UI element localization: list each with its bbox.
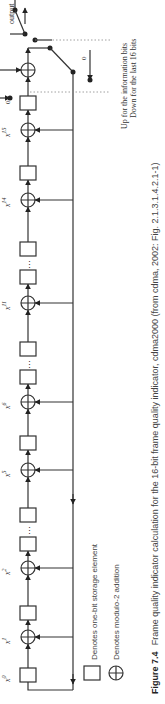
svg-text:Denotes modulo-2 addition: Denotes modulo-2 addition bbox=[112, 564, 121, 660]
svg-text:Denotes one-bit storage elemen: Denotes one-bit storage element bbox=[90, 543, 99, 660]
storage-element bbox=[20, 668, 36, 682]
storage-element bbox=[20, 606, 36, 620]
svg-text:0: 0 bbox=[80, 56, 88, 60]
switch-note: Up for the information bits Down for the… bbox=[120, 39, 138, 129]
svg-text:x6: x6 bbox=[1, 402, 12, 410]
tap-labels: x0 x1 x2 x5 x6 x11 x14 x15 0 0 output bbox=[1, 3, 88, 683]
legend-storage-icon bbox=[84, 666, 100, 680]
svg-text:x1: x1 bbox=[1, 637, 12, 645]
figure-label: Figure 7.4 bbox=[150, 651, 160, 694]
storage-element bbox=[20, 96, 36, 110]
svg-text:output: output bbox=[7, 3, 16, 24]
svg-text:Figure 7.4 Frame quali: Figure 7.4 Frame quality indicator calcu… bbox=[150, 162, 160, 694]
svg-text:x15: x15 bbox=[1, 127, 12, 138]
svg-text:x0: x0 bbox=[1, 675, 12, 683]
storage-element bbox=[20, 537, 36, 551]
storage-element bbox=[20, 436, 36, 450]
svg-text:x14: x14 bbox=[1, 197, 12, 208]
svg-text:x5: x5 bbox=[1, 470, 12, 478]
svg-text:Up for the information bits: Up for the information bits bbox=[120, 43, 129, 129]
caption-text: Frame quality indicator calculation for … bbox=[150, 162, 160, 645]
figure-caption: Figure 7.4 Frame quality indicator calcu… bbox=[150, 162, 160, 694]
crc-diagram: ⋮ ⋮ ⋮ bbox=[0, 0, 165, 704]
svg-text:⋮: ⋮ bbox=[25, 260, 34, 270]
storage-element bbox=[20, 370, 36, 384]
svg-text:⋮: ⋮ bbox=[25, 360, 34, 370]
switch bbox=[0, 0, 110, 101]
svg-text:0: 0 bbox=[4, 100, 12, 104]
svg-text:⋮: ⋮ bbox=[25, 526, 34, 536]
storage-element bbox=[20, 508, 36, 522]
feedback-line bbox=[35, 72, 73, 690]
svg-text:x2: x2 bbox=[1, 568, 12, 576]
storage-element bbox=[20, 270, 36, 284]
legend: Denotes one-bit storage element Denotes … bbox=[84, 543, 123, 680]
svg-text:x11: x11 bbox=[1, 301, 12, 311]
svg-text:Down for the last 16 bits: Down for the last 16 bits bbox=[129, 39, 138, 118]
storage-element bbox=[20, 242, 36, 256]
storage-element bbox=[20, 342, 36, 356]
register-chain: ⋮ ⋮ ⋮ bbox=[0, 48, 73, 690]
storage-element bbox=[20, 166, 36, 180]
